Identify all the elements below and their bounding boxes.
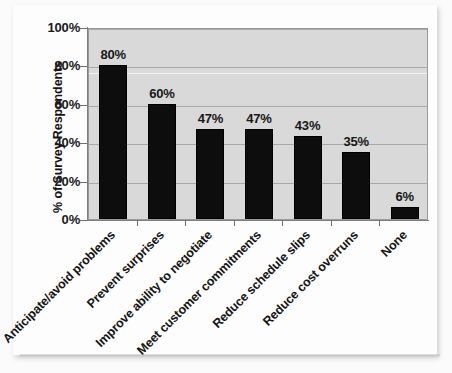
bar-slot: 80% xyxy=(99,27,127,219)
bar-slot: 47% xyxy=(245,27,273,219)
y-tick-mark xyxy=(80,182,87,183)
y-tick-label: 100% xyxy=(34,20,80,35)
bar[interactable] xyxy=(245,129,273,219)
y-tick-mark xyxy=(80,105,87,106)
x-tick-mark xyxy=(234,220,235,226)
bar-slot: 35% xyxy=(342,27,370,219)
bar[interactable] xyxy=(148,104,176,219)
y-tick-mark xyxy=(80,220,87,221)
bar-slot: 43% xyxy=(294,27,322,219)
bar-series: 80%60%47%47%43%35%6% xyxy=(89,29,427,219)
y-tick-label: 20% xyxy=(34,174,80,189)
chart-figure: % of Survey Respondents 0%20%40%60%80%10… xyxy=(0,0,452,373)
bar[interactable] xyxy=(196,129,224,219)
bar-slot: 6% xyxy=(391,27,419,219)
bar-slot: 47% xyxy=(196,27,224,219)
x-tick-mark xyxy=(282,220,283,226)
bar-slot: 60% xyxy=(148,27,176,219)
y-tick-label: 40% xyxy=(34,135,80,150)
y-tick-mark xyxy=(80,28,87,29)
bar-value-label: 6% xyxy=(383,189,427,204)
x-axis-line xyxy=(87,220,429,221)
bar-value-label: 60% xyxy=(140,86,184,101)
bar-value-label: 47% xyxy=(237,111,281,126)
x-tick-mark xyxy=(379,220,380,226)
card-shadow xyxy=(20,354,440,358)
x-tick-mark xyxy=(137,220,138,226)
bar-value-label: 80% xyxy=(91,47,135,62)
x-tick-mark xyxy=(185,220,186,226)
x-tick-mark xyxy=(331,220,332,226)
bar-value-label: 47% xyxy=(188,111,232,126)
y-tick-mark xyxy=(80,143,87,144)
bar-value-label: 43% xyxy=(286,118,330,133)
bar-value-label: 35% xyxy=(334,134,378,149)
bar[interactable] xyxy=(342,152,370,219)
plot-area: 80%60%47%47%43%35%6% xyxy=(88,28,428,220)
bar[interactable] xyxy=(294,136,322,219)
bar[interactable] xyxy=(391,207,419,219)
y-tick-label: 80% xyxy=(34,58,80,73)
y-tick-mark xyxy=(80,66,87,67)
y-tick-label: 60% xyxy=(34,97,80,112)
y-tick-label: 0% xyxy=(34,212,80,227)
bar[interactable] xyxy=(99,65,127,219)
